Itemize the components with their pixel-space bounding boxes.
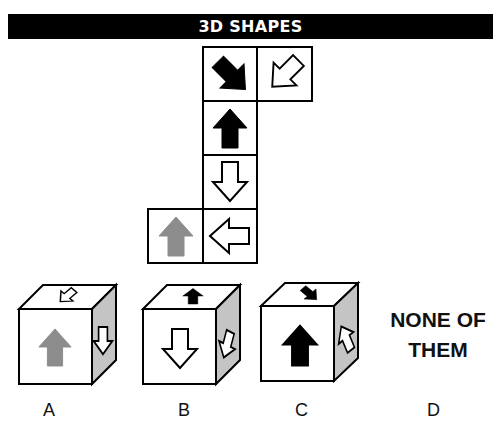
arrow-down-left-icon bbox=[261, 49, 310, 98]
arrow-up-gray-icon bbox=[159, 217, 193, 256]
arrow-down-icon bbox=[213, 162, 247, 201]
option-b-cube[interactable] bbox=[143, 285, 240, 384]
option-b-label[interactable]: B bbox=[178, 400, 190, 421]
option-c-cube[interactable] bbox=[261, 283, 358, 381]
option-a-label[interactable]: A bbox=[43, 400, 55, 421]
arrow-left-icon bbox=[210, 219, 249, 253]
option-d-label[interactable]: D bbox=[427, 400, 440, 421]
option-a-cube[interactable] bbox=[19, 285, 116, 384]
option-d-text[interactable]: NONE OF THEM bbox=[383, 305, 493, 365]
puzzle-figure bbox=[0, 0, 499, 432]
option-c-label[interactable]: C bbox=[295, 400, 308, 421]
arrow-up-icon bbox=[213, 109, 247, 148]
option-d-line2: THEM bbox=[383, 335, 493, 365]
option-d-line1: NONE OF bbox=[383, 305, 493, 335]
arrow-down-right-icon bbox=[206, 50, 258, 102]
